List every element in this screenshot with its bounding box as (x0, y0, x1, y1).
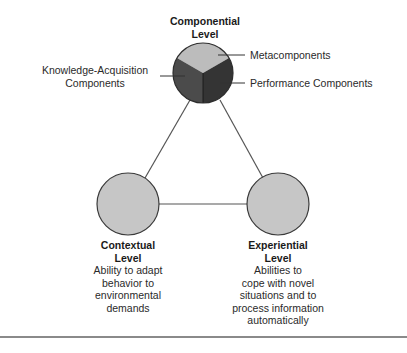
experiential-label: Experiential Level Abilities to cope wit… (218, 239, 338, 327)
contextual-title-line2: Level (68, 252, 188, 265)
componential-title: Componential Level (163, 15, 247, 40)
experiential-desc-4: process information (218, 302, 338, 315)
componential-circle (173, 43, 233, 103)
contextual-desc-3: environmental (68, 289, 188, 302)
contextual-circle (97, 173, 159, 235)
diagram-canvas (0, 0, 407, 353)
knowledge-acquisition-line2: Components (30, 77, 160, 90)
experiential-circle (247, 173, 309, 235)
contextual-desc-1: Ability to adapt (68, 264, 188, 277)
componential-title-line2: Level (163, 28, 247, 41)
contextual-desc-4: demands (68, 302, 188, 315)
experiential-title-line1: Experiential (218, 239, 338, 252)
experiential-desc-1: Abilities to (218, 264, 338, 277)
bottom-separator (0, 336, 407, 338)
experiential-desc-5: automatically (218, 314, 338, 327)
experiential-title-line2: Level (218, 252, 338, 265)
contextual-title-line1: Contextual (68, 239, 188, 252)
metacomponents-label: Metacomponents (250, 49, 331, 62)
knowledge-acquisition-label: Knowledge-Acquisition Components (30, 64, 160, 89)
experiential-desc-3: situations and to (218, 289, 338, 302)
contextual-desc-2: behavior to (68, 277, 188, 290)
contextual-label: Contextual Level Ability to adapt behavi… (68, 239, 188, 314)
experiential-desc-2: cope with novel (218, 277, 338, 290)
connector-componential-contextual (145, 100, 190, 178)
knowledge-acquisition-line1: Knowledge-Acquisition (30, 64, 160, 77)
performance-components-label: Performance Components (250, 77, 373, 90)
componential-title-line1: Componential (163, 15, 247, 28)
connector-componential-experiential (220, 100, 263, 178)
